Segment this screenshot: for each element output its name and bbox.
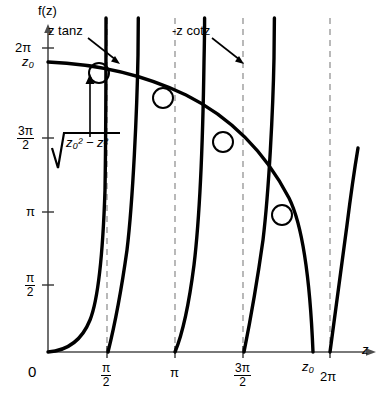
fraction-denominator: 2 bbox=[234, 376, 251, 389]
intersection-point-2 bbox=[153, 88, 173, 108]
radical-expression-text: z₀² − z² bbox=[66, 135, 108, 150]
tan-label-arrow-line bbox=[88, 38, 116, 60]
radical-label-arrowhead bbox=[86, 74, 95, 84]
x-tick-label-3pi-over-2: 3π 2 bbox=[234, 362, 251, 388]
x-tick-label-0: 0 bbox=[28, 364, 36, 379]
negative-z-cot-z-curve bbox=[108, 18, 274, 352]
y-tick-label-pi: π bbox=[26, 205, 35, 218]
negative-z-cot-z-label: -z cotz bbox=[172, 24, 210, 37]
fraction-numerator: π bbox=[101, 362, 111, 376]
x-tick-label-z0: z₀ bbox=[302, 360, 314, 373]
fraction-denominator: 2 bbox=[17, 139, 34, 152]
x-tick-label-pi: π bbox=[170, 366, 179, 379]
x-tick-label-pi-over-2: π 2 bbox=[101, 362, 111, 388]
fraction-numerator: π bbox=[25, 272, 35, 286]
fraction-3pi-over-2: 3π 2 bbox=[17, 125, 34, 151]
y-tick-label-3pi-over-2: 3π 2 bbox=[17, 125, 34, 151]
intersection-markers bbox=[89, 63, 292, 225]
intersection-point-3 bbox=[213, 132, 233, 152]
plot-svg bbox=[0, 0, 381, 401]
fraction-3pi-over-2: 3π 2 bbox=[234, 362, 251, 388]
intersection-point-4 bbox=[272, 205, 292, 225]
fraction-numerator: 3π bbox=[234, 362, 251, 376]
fraction-pi-over-2: π 2 bbox=[25, 272, 35, 298]
y-tick-label-z0: z₀ bbox=[22, 55, 34, 68]
y-tick-label-pi-over-2: π 2 bbox=[25, 272, 35, 298]
y-tick-label-2pi: 2π bbox=[15, 41, 31, 54]
x-tick-label-2pi: 2π bbox=[320, 370, 336, 383]
fraction-denominator: 2 bbox=[101, 376, 111, 389]
fraction-pi-over-2: π 2 bbox=[101, 362, 111, 388]
cot-branch-1 bbox=[108, 18, 138, 352]
function-plot: f(z) z z tanz -z cotz z₀² − z² 2π z₀ 3π … bbox=[0, 0, 381, 401]
cot-label-arrow-line bbox=[212, 38, 240, 60]
fraction-numerator: 3π bbox=[17, 125, 34, 139]
cot-branch-3 bbox=[244, 18, 274, 352]
radical-expression-label: z₀² − z² bbox=[66, 136, 108, 149]
z-tan-z-label: z tanz bbox=[48, 24, 83, 37]
tan-branch-4 bbox=[330, 148, 358, 352]
fraction-denominator: 2 bbox=[25, 286, 35, 299]
dashed-asymptotes bbox=[107, 18, 330, 352]
x-axis-label: z bbox=[362, 343, 369, 356]
tan-branch-2 bbox=[175, 18, 205, 352]
y-axis-label: f(z) bbox=[38, 4, 57, 17]
